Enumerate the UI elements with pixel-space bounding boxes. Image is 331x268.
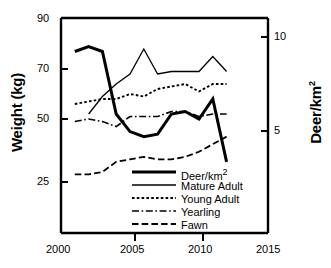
legend-label-text-3: Yearling <box>181 206 220 218</box>
legend-line-samples <box>132 172 176 224</box>
legend-label-text-1: Mature Adult <box>181 180 243 192</box>
legend-label-text-4: Fawn <box>181 219 208 231</box>
ytick-label-70: 70 <box>37 62 49 74</box>
y-axis-label-left: Weight (kg) <box>8 53 25 173</box>
xtick-label-2000: 2000 <box>46 243 70 255</box>
ytick-label-50: 50 <box>37 112 49 124</box>
rtick-label-5: 5 <box>274 124 280 136</box>
y-axis-label-right-text: Deer/km <box>307 86 324 144</box>
data-series-group <box>75 47 227 175</box>
legend-item-yearling: Yearling <box>181 206 220 218</box>
chart-figure: Weight (kg) Deer/km2 90 70 50 25 10 5 20… <box>0 0 331 268</box>
legend-item-young-adult: Young Adult <box>181 193 239 205</box>
legend-item-fawn: Fawn <box>181 219 208 231</box>
series-line-deer-km2 <box>75 47 227 162</box>
series-line-young-adult <box>75 84 227 104</box>
rtick-label-10: 10 <box>274 30 286 42</box>
ytick-label-25: 25 <box>37 175 49 187</box>
y-axis-label-right-superscript: 2 <box>307 81 317 86</box>
xtick-label-2010: 2010 <box>188 243 212 255</box>
y-axis-label-right: Deer/km2 <box>307 53 324 173</box>
ytick-label-90: 90 <box>37 12 49 24</box>
xtick-label-2005: 2005 <box>120 243 144 255</box>
legend-label-text-2: Young Adult <box>181 193 239 205</box>
legend-item-mature-adult: Mature Adult <box>181 180 243 192</box>
legend-label-superscript-0: 2 <box>223 167 228 177</box>
xtick-label-2015: 2015 <box>256 243 280 255</box>
